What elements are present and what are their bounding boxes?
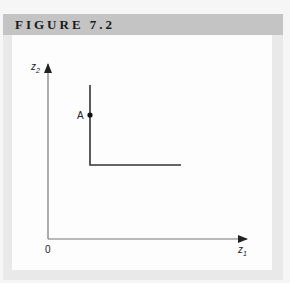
x-axis-label: z1 bbox=[237, 244, 247, 257]
point-a-marker bbox=[87, 112, 92, 117]
origin-label: 0 bbox=[45, 244, 51, 255]
point-a-label: A bbox=[77, 110, 84, 121]
y-axis-label: z2 bbox=[30, 61, 40, 74]
diagram-canvas: A z2 z1 0 bbox=[0, 0, 290, 283]
x-axis-label-sub: 1 bbox=[243, 250, 247, 257]
l-shaped-curve bbox=[90, 85, 181, 165]
y-axis-label-sub: 2 bbox=[35, 67, 40, 74]
